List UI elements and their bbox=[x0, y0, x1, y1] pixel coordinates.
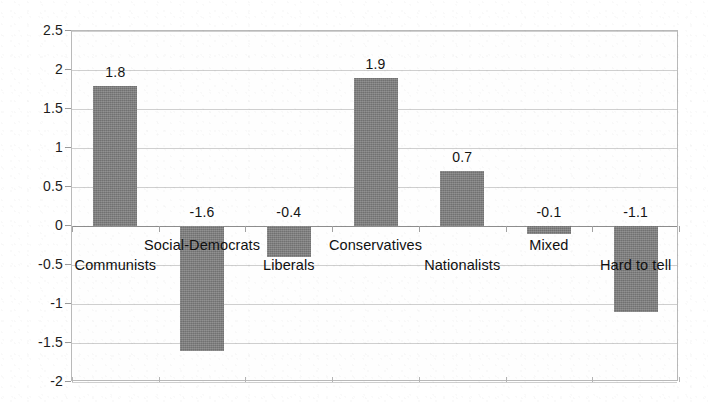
value-label: -1.1 bbox=[596, 205, 676, 219]
category-label: Conservatives bbox=[296, 238, 456, 253]
x-tick-mark bbox=[506, 226, 507, 232]
x-tick-mark-bottom bbox=[245, 377, 246, 382]
category-label: Hard to tell bbox=[556, 258, 708, 273]
gridline bbox=[72, 343, 677, 344]
x-tick-mark bbox=[159, 226, 160, 232]
x-tick-mark bbox=[679, 226, 680, 232]
value-label: -0.1 bbox=[509, 205, 589, 219]
y-tick-label: 2.5 bbox=[23, 23, 63, 37]
bar-chart: 1.8-1.6-0.41.90.7-0.1-1.1 CommunistsSoci… bbox=[0, 0, 708, 407]
x-tick-mark bbox=[72, 226, 73, 232]
x-tick-mark-bottom bbox=[419, 377, 420, 382]
plot-area: 1.8-1.6-0.41.90.7-0.1-1.1 CommunistsSoci… bbox=[71, 30, 678, 381]
gridline bbox=[72, 304, 677, 305]
value-label: -0.4 bbox=[249, 205, 329, 219]
y-tick-label: 1.5 bbox=[23, 101, 63, 115]
y-tick-mark bbox=[65, 342, 71, 343]
value-label: 1.8 bbox=[75, 65, 155, 79]
y-tick-label: -0.5 bbox=[23, 257, 63, 271]
y-tick-mark bbox=[65, 69, 71, 70]
y-tick-mark bbox=[65, 147, 71, 148]
bar bbox=[93, 86, 137, 226]
y-tick-mark bbox=[65, 381, 71, 382]
y-tick-label: 0.5 bbox=[23, 179, 63, 193]
y-tick-mark bbox=[65, 30, 71, 31]
y-tick-label: -1 bbox=[23, 296, 63, 310]
zero-axis-line bbox=[72, 226, 677, 227]
x-tick-mark bbox=[419, 226, 420, 232]
bar bbox=[527, 226, 571, 234]
bar bbox=[354, 78, 398, 226]
gridline bbox=[72, 31, 677, 32]
category-label: Mixed bbox=[469, 238, 629, 253]
category-label: Nationalists bbox=[382, 258, 542, 273]
y-tick-label: -1.5 bbox=[23, 335, 63, 349]
x-tick-mark bbox=[592, 226, 593, 232]
x-tick-mark bbox=[332, 226, 333, 232]
y-tick-mark bbox=[65, 225, 71, 226]
y-tick-label: 2 bbox=[23, 62, 63, 76]
y-tick-mark bbox=[65, 108, 71, 109]
gridline bbox=[72, 382, 677, 383]
x-tick-mark-bottom bbox=[679, 377, 680, 382]
value-label: 0.7 bbox=[422, 150, 502, 164]
value-label: -1.6 bbox=[162, 205, 242, 219]
x-tick-mark-bottom bbox=[72, 377, 73, 382]
y-tick-label: 0 bbox=[23, 218, 63, 232]
y-tick-label: -2 bbox=[23, 374, 63, 388]
x-tick-mark bbox=[245, 226, 246, 232]
x-tick-mark-bottom bbox=[159, 377, 160, 382]
bar bbox=[440, 171, 484, 226]
y-tick-label: 1 bbox=[23, 140, 63, 154]
y-tick-mark bbox=[65, 303, 71, 304]
x-tick-mark-bottom bbox=[332, 377, 333, 382]
y-tick-mark bbox=[65, 264, 71, 265]
value-label: 1.9 bbox=[336, 57, 416, 71]
category-label: Social-Democrats bbox=[122, 238, 282, 253]
x-tick-mark-bottom bbox=[592, 377, 593, 382]
category-label: Liberals bbox=[209, 258, 369, 273]
x-tick-mark-bottom bbox=[506, 377, 507, 382]
y-tick-mark bbox=[65, 186, 71, 187]
